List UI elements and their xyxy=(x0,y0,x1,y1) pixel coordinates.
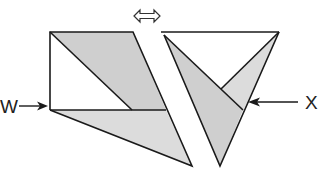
diagram-canvas: W X xyxy=(0,0,335,189)
x-arrow-icon xyxy=(248,98,298,107)
swap-arrow-icon xyxy=(134,10,160,22)
label-x: X xyxy=(305,93,318,112)
diagram-figures xyxy=(0,0,335,189)
left-upper-shaded-region xyxy=(50,32,166,110)
w-arrow-icon xyxy=(19,102,48,111)
label-w: W xyxy=(0,97,18,116)
